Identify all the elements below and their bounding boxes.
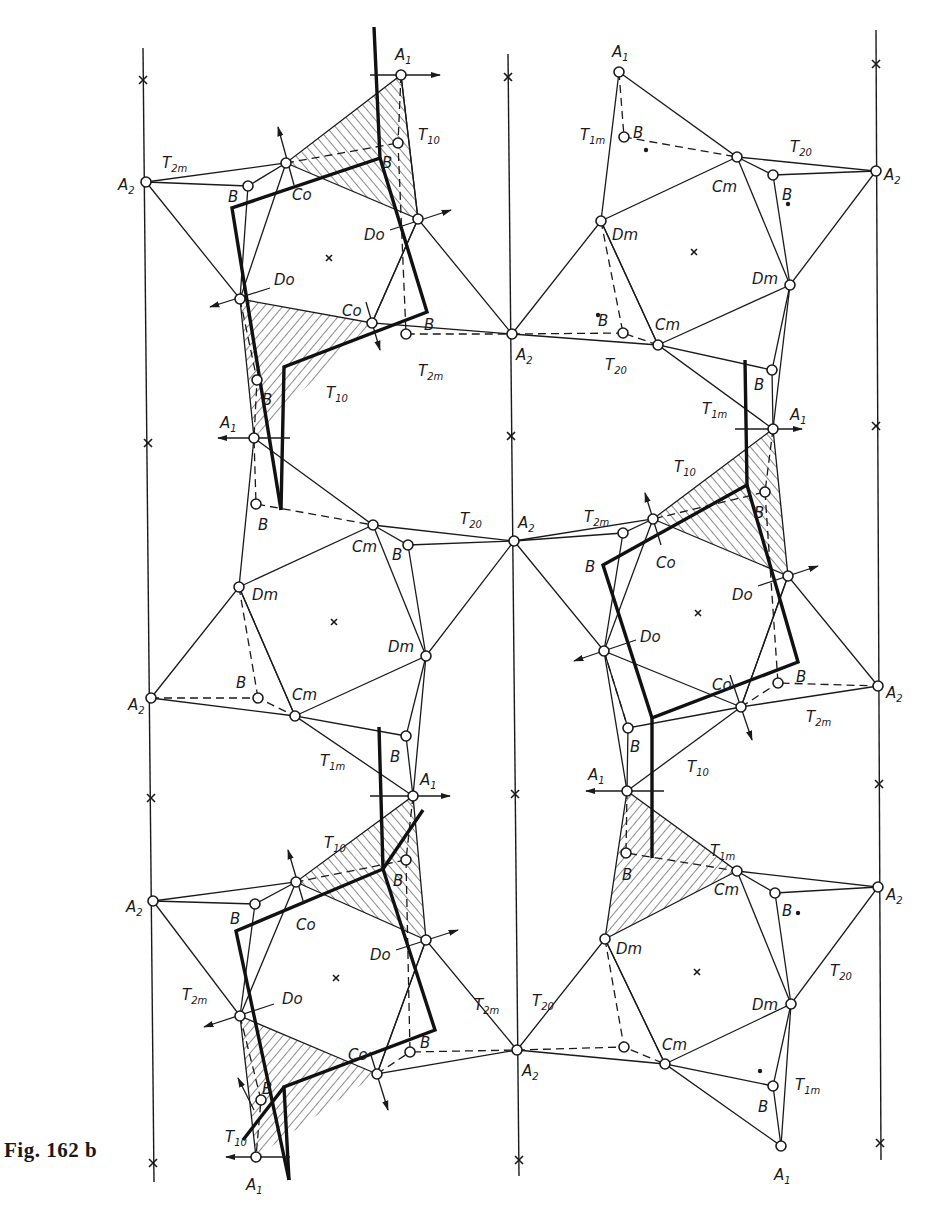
position-dot	[786, 202, 790, 206]
atom-node-b-10	[618, 528, 628, 538]
ring-center-icon	[694, 969, 700, 975]
atom-node-co-6	[372, 1069, 382, 1079]
atom-node-cm-2	[653, 340, 663, 350]
atom-node-a1-1	[396, 70, 406, 80]
atom-label: Do	[282, 990, 303, 1008]
atom-label: Co	[656, 554, 676, 572]
axis-mark-icon	[149, 1159, 157, 1167]
atom-node-b-16	[401, 731, 411, 741]
atom-node-co-3	[648, 514, 658, 524]
atom-node-dm-5	[600, 934, 610, 944]
tetrahedron-label: T20	[830, 962, 852, 982]
tetrahedron-label: T20	[460, 510, 482, 530]
atom-label: A2	[883, 166, 901, 186]
atom-node-a2-2	[507, 329, 517, 339]
atom-label: B	[633, 124, 643, 142]
atom-node-a1-5	[622, 786, 632, 796]
atom-label: B	[758, 1098, 768, 1116]
atom-node-cm-1	[732, 152, 742, 162]
atom-label: A2	[117, 176, 135, 196]
atom-node-do-5	[421, 935, 431, 945]
ring-center-icon	[691, 249, 697, 255]
tetrahedron-label: T10	[418, 126, 440, 146]
position-dot	[596, 313, 600, 317]
atom-label: B	[390, 748, 400, 766]
atom-node-do-2	[235, 294, 245, 304]
atom-node-b-22	[770, 888, 780, 898]
atom-node-a1-3	[614, 67, 624, 77]
tetrahedron-label: T1m	[710, 842, 736, 862]
ring-center-icon	[695, 610, 701, 616]
tetrahedron-label: T10	[324, 834, 346, 854]
atom-label: Co	[712, 676, 732, 694]
atom-label: Cm	[655, 316, 680, 334]
tetrahedron-label: T2m	[418, 362, 444, 382]
tetrahedron-labels: T2mT10T2mT10T1mT20T20T1mT10T20T2mT2mT10T…	[162, 126, 852, 1148]
tetrahedron-label: T2m	[182, 986, 208, 1006]
hatched-tetrahedron	[240, 1016, 377, 1157]
atom-label: Cm	[662, 1036, 687, 1054]
atom-label: B	[393, 872, 403, 890]
atom-node-b-19	[405, 1047, 415, 1057]
mirror-axis-center	[508, 54, 519, 1176]
atom-node-dm-1	[596, 216, 606, 226]
atom-label: B	[754, 376, 764, 394]
atom-node-b-21	[621, 848, 631, 858]
atom-label: A2	[521, 1062, 539, 1082]
tetrahedron-label: T10	[326, 384, 348, 404]
atom-node-b-9	[760, 487, 770, 497]
position-dot	[758, 1069, 762, 1073]
atom-node-b-23	[619, 1042, 629, 1052]
atom-label: A2	[125, 898, 143, 918]
atom-label: Co	[292, 186, 312, 204]
atom-label: A2	[515, 346, 533, 366]
atom-label: Dm	[616, 940, 642, 958]
tetrahedron-label: T10	[225, 1128, 247, 1148]
hatched-tetrahedron	[605, 791, 737, 939]
heavy-outlines	[232, 27, 798, 1180]
ring-center-icon	[333, 975, 339, 981]
atom-label: B	[782, 186, 792, 204]
atom-label: Dm	[252, 586, 278, 604]
mirror-axis-right	[876, 30, 881, 1160]
framework-edges	[146, 72, 878, 1157]
atom-label: Do	[732, 586, 753, 604]
tetrahedron-label: T20	[790, 138, 812, 158]
atom-node-a1-7	[251, 1152, 261, 1162]
atom-label: A2	[127, 696, 145, 716]
atom-node-a1-2	[249, 433, 259, 443]
tetrahedron-label: T1m	[580, 126, 606, 146]
atom-label: B	[630, 738, 640, 756]
atom-label: Cm	[712, 178, 737, 196]
axis-mark-icon	[144, 439, 152, 447]
tetrahedron-label: T2m	[474, 996, 500, 1016]
atom-node-a2-8	[512, 1045, 522, 1055]
atom-node-cm-4	[290, 711, 300, 721]
atom-node-a2-3	[871, 166, 881, 176]
atom-label: A1	[394, 46, 412, 66]
atom-label: B	[262, 391, 272, 409]
atom-label: Dm	[388, 638, 414, 656]
atom-label: Co	[296, 916, 316, 934]
atom-node-co-1	[281, 158, 291, 168]
atom-label: B	[796, 668, 806, 686]
atom-label: B	[230, 910, 240, 928]
atom-node-b-17	[401, 855, 411, 865]
atom-node-b-12	[623, 723, 633, 733]
atom-label: A2	[517, 514, 535, 534]
atom-label: A1	[773, 1166, 791, 1186]
atom-node-b-3	[401, 329, 411, 339]
atom-node-a2-1	[141, 177, 151, 187]
atom-node-a1-8	[776, 1141, 786, 1151]
atom-node-dm-2	[785, 280, 795, 290]
tetrahedron-label: T2m	[584, 508, 610, 528]
tetrahedron-label: T20	[605, 356, 627, 376]
tetrahedron-label: T1m	[320, 752, 346, 772]
atom-label: Cm	[714, 881, 739, 899]
ring-center-icon	[326, 255, 332, 261]
atom-label: Co	[342, 302, 362, 320]
axis-mark-icon	[872, 422, 880, 430]
atom-node-dm-6	[786, 999, 796, 1009]
atom-label: Cm	[292, 686, 317, 704]
atom-node-a2-4	[509, 536, 519, 546]
